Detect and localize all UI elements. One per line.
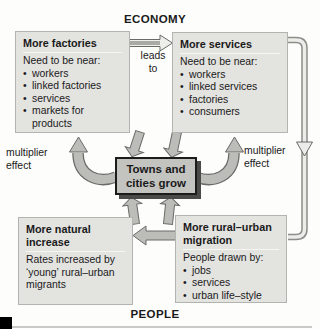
- more-natural-increase-body: Rates increased by ‘young’ rural–urban m…: [26, 254, 125, 292]
- list-item: •consumers: [180, 106, 280, 119]
- bullet-icon: •: [23, 68, 32, 81]
- services-to-towns-arrow-icon: [162, 130, 186, 159]
- bullet-icon: •: [183, 290, 192, 303]
- more-services-bullet-list: •workers •linked services •factories •co…: [180, 69, 280, 119]
- list-item: •linked factories: [23, 80, 122, 93]
- more-factories-bullet-list: •workers •linked factories •services •ma…: [23, 68, 122, 131]
- more-services-title: More services: [180, 38, 280, 54]
- list-item: •markets for products: [23, 105, 122, 130]
- urbanisation-diagram: ECONOMY PEOPLE leads to multiplier effec…: [0, 0, 320, 329]
- leads-to-line2: to: [138, 62, 168, 75]
- multiplier-left-line2: effect: [6, 159, 48, 172]
- multiplier-right-arrow-icon: [196, 137, 244, 179]
- list-item: •factories: [180, 94, 280, 107]
- more-rural-urban-migration-intro: People drawn by:: [183, 252, 279, 265]
- bullet-icon: •: [23, 80, 32, 93]
- list-item: •urban life–style: [183, 290, 279, 303]
- multiplier-effect-left-label: multiplier effect: [6, 146, 48, 172]
- list-item: •workers: [23, 68, 122, 81]
- people-label: PEOPLE: [0, 308, 310, 320]
- list-item: •jobs: [183, 265, 279, 278]
- more-rural-urban-migration-box: More rural–urban migration People drawn …: [175, 215, 287, 303]
- multiplier-right-line1: multiplier: [244, 144, 286, 157]
- leads-to-line1: leads: [138, 49, 168, 62]
- bullet-icon: •: [180, 81, 189, 94]
- more-services-box: More services Need to be near: •workers …: [172, 32, 288, 133]
- list-item: •workers: [180, 69, 280, 82]
- bullet-text: factories: [189, 94, 228, 107]
- bullet-text: services: [192, 277, 230, 290]
- multiplier-left-line1: multiplier: [6, 146, 48, 159]
- bullet-text: linked factories: [32, 80, 101, 93]
- migration-to-natural-increase-arrow-icon: [133, 226, 177, 245]
- center-box-line2: cities grow: [126, 176, 186, 190]
- leads-to-label: leads to: [138, 49, 168, 75]
- bullet-icon: •: [180, 69, 189, 82]
- more-rural-urban-migration-title: More rural–urban migration: [183, 221, 279, 250]
- bullet-text: workers: [189, 69, 225, 82]
- economy-label: ECONOMY: [0, 13, 310, 25]
- bullet-text: jobs: [192, 265, 211, 278]
- multiplier-right-line2: effect: [244, 157, 286, 170]
- services-to-migration-loop-arrow-icon: [288, 40, 313, 237]
- list-item: •linked services: [180, 81, 280, 94]
- more-natural-increase-box: More natural increase Rates increased by…: [18, 217, 133, 305]
- bullet-icon: •: [183, 277, 192, 290]
- more-natural-increase-title: More natural increase: [26, 223, 125, 252]
- factories-to-towns-arrow-icon: [123, 129, 149, 160]
- list-item: •services: [23, 93, 122, 106]
- center-box-line1: Towns and: [126, 162, 185, 176]
- list-item: •services: [183, 277, 279, 290]
- bullet-icon: •: [180, 106, 189, 119]
- multiplier-left-arrow-icon: [70, 137, 117, 179]
- bullet-text: urban life–style: [192, 290, 262, 303]
- bullet-text: linked services: [189, 81, 257, 94]
- towns-and-cities-grow-box: Towns and cities grow: [115, 157, 197, 195]
- more-factories-intro: Need to be near:: [23, 55, 122, 68]
- more-factories-box: More factories Need to be near: •workers…: [15, 31, 130, 133]
- more-services-intro: Need to be near:: [180, 56, 280, 69]
- bullet-icon: •: [23, 105, 32, 130]
- bullet-text: markets for products: [32, 105, 122, 130]
- bullet-text: consumers: [189, 106, 240, 119]
- multiplier-effect-right-label: multiplier effect: [244, 144, 286, 170]
- bullet-icon: •: [23, 93, 32, 106]
- bullet-text: services: [32, 93, 70, 106]
- bullet-icon: •: [180, 94, 189, 107]
- more-factories-title: More factories: [23, 37, 122, 53]
- bullet-icon: •: [183, 265, 192, 278]
- more-rural-urban-migration-bullet-list: •jobs •services •urban life–style: [183, 265, 279, 303]
- bullet-text: workers: [32, 68, 68, 81]
